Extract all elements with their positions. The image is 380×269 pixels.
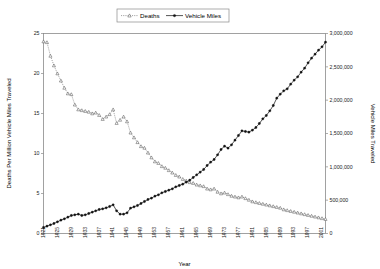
series-deaths — [42, 40, 327, 220]
data-point-marker — [286, 88, 288, 90]
data-point-marker — [95, 210, 97, 212]
data-point-marker — [314, 53, 316, 55]
data-point-marker — [136, 141, 139, 144]
data-point-marker — [77, 213, 79, 215]
legend-label-deaths: Deaths — [140, 12, 160, 19]
data-point-marker — [171, 171, 174, 174]
legend-marker-vehicle-miles — [173, 14, 175, 16]
data-point-marker — [223, 145, 225, 147]
data-point-marker — [164, 166, 167, 169]
data-point-marker — [140, 202, 142, 204]
data-point-marker — [108, 205, 110, 207]
data-point-marker — [258, 202, 261, 205]
data-point-marker — [161, 192, 163, 194]
x-axis-title: Year — [178, 261, 190, 267]
data-point-marker — [84, 110, 87, 113]
data-point-marker — [314, 215, 317, 218]
x-axis-tick-label: 1965 — [193, 227, 199, 238]
y-axis-tick-label: 5 — [37, 190, 40, 196]
data-point-marker — [126, 120, 129, 123]
data-point-marker — [160, 165, 163, 168]
data-point-marker — [98, 114, 101, 117]
data-point-marker — [63, 218, 65, 220]
data-point-marker — [115, 210, 117, 212]
data-point-marker — [192, 176, 194, 178]
data-point-marker — [112, 204, 114, 206]
y2-axis-tick-label: 2,500,000 — [330, 64, 353, 70]
data-point-marker — [206, 187, 209, 190]
data-point-marker — [49, 224, 51, 226]
y2-axis-tick-label: 1,500,000 — [330, 130, 353, 136]
y2-axis-title: Vehicle Miles Traveled — [370, 104, 376, 164]
data-point-marker — [157, 162, 160, 165]
data-point-marker — [122, 115, 125, 118]
data-point-marker — [275, 206, 278, 209]
data-point-marker — [167, 169, 170, 172]
data-point-marker — [240, 195, 243, 198]
y2-axis-tick-label: 3,000,000 — [330, 30, 353, 36]
data-point-marker — [216, 154, 218, 156]
data-point-marker — [153, 160, 156, 163]
data-point-marker — [220, 148, 222, 150]
data-point-marker — [251, 129, 253, 131]
data-point-marker — [276, 97, 278, 99]
data-point-marker — [185, 181, 187, 183]
data-point-marker — [237, 134, 239, 136]
data-point-marker — [248, 131, 250, 133]
data-point-marker — [282, 208, 285, 211]
data-point-marker — [209, 188, 212, 191]
data-point-marker — [174, 174, 177, 177]
data-point-marker — [279, 93, 281, 95]
x-axis-tick-label: 1977 — [235, 227, 241, 238]
data-point-marker — [324, 41, 326, 43]
data-point-marker — [52, 64, 55, 67]
x-axis-tick-label: 1949 — [137, 227, 143, 238]
data-point-marker — [213, 187, 216, 190]
data-point-marker — [258, 122, 260, 124]
data-point-marker — [226, 193, 229, 196]
data-point-marker — [233, 195, 236, 198]
x-axis-tick-label: 1961 — [179, 227, 185, 238]
data-point-marker — [105, 207, 107, 209]
data-point-marker — [241, 130, 243, 132]
x-axis-tick-label: 1957 — [165, 227, 171, 238]
x-axis-tick-label: 1941 — [109, 227, 115, 238]
y-axis-tick-label: 10 — [34, 150, 40, 156]
data-point-marker — [272, 104, 274, 106]
data-point-marker — [126, 212, 128, 214]
data-point-marker — [213, 158, 215, 160]
data-point-marker — [196, 174, 198, 176]
y-axis-tick-label: 15 — [34, 110, 40, 116]
data-point-marker — [59, 79, 62, 82]
data-point-marker — [307, 62, 309, 64]
x-axis-tick-label: 2001 — [318, 227, 324, 238]
data-point-marker — [255, 126, 257, 128]
data-point-marker — [56, 221, 58, 223]
data-point-marker — [63, 86, 66, 89]
data-point-marker — [290, 83, 292, 85]
data-point-marker — [286, 209, 289, 212]
data-point-marker — [251, 200, 254, 203]
data-point-marker — [67, 216, 69, 218]
y2-axis-tick-label: 0 — [330, 230, 333, 236]
data-point-marker — [247, 198, 250, 201]
data-point-marker — [119, 118, 122, 121]
data-point-marker — [320, 217, 323, 220]
data-point-marker — [88, 212, 90, 214]
data-point-marker — [122, 213, 124, 215]
series-vehicle-miles — [42, 41, 326, 229]
data-point-marker — [91, 211, 93, 213]
data-point-marker — [181, 178, 184, 181]
data-point-marker — [230, 144, 232, 146]
data-point-marker — [133, 206, 135, 208]
line-chart: 05101520250500,0001,000,0001,500,0002,00… — [0, 0, 380, 269]
data-point-marker — [87, 110, 90, 113]
data-point-marker — [150, 197, 152, 199]
y2-axis-tick-label: 1,000,000 — [330, 164, 353, 170]
data-point-marker — [310, 57, 312, 59]
data-point-marker — [154, 195, 156, 197]
data-point-marker — [206, 164, 208, 166]
data-point-marker — [74, 214, 76, 216]
y-axis-tick-label: 25 — [34, 30, 40, 36]
data-point-marker — [98, 208, 100, 210]
